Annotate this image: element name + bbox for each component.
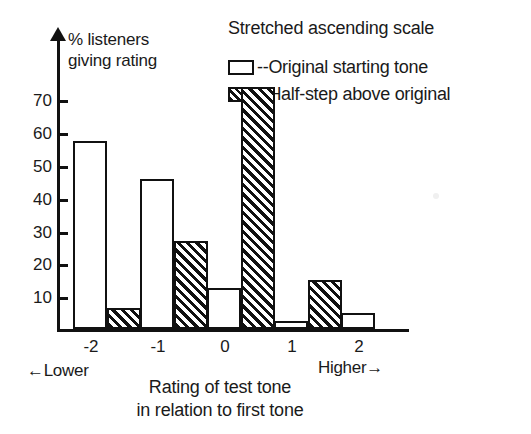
scan-artifact-speck xyxy=(433,193,439,199)
x-axis-caption: Rating of test tone in relation to first… xyxy=(0,376,440,423)
bar-original-0 xyxy=(207,288,241,329)
y-axis-tick-label: 20 xyxy=(18,256,52,273)
bar-halfstep-0 xyxy=(241,87,275,329)
y-axis-tick-label: 70 xyxy=(18,92,52,109)
y-axis-tick-label: 40 xyxy=(18,191,52,208)
x-axis-caption-line-1: Rating of test tone xyxy=(149,377,291,397)
bar-chart-figure: Stretched ascending scale --Original sta… xyxy=(0,0,531,434)
x-axis-tick-label: 0 xyxy=(210,338,240,355)
x-axis-line xyxy=(57,329,409,332)
x-axis-caption-line-2: in relation to first tone xyxy=(136,400,303,420)
x-axis-tick-label: 1 xyxy=(277,338,307,355)
bar-original-2 xyxy=(341,313,375,329)
bar-halfstep-1 xyxy=(308,280,342,329)
x-axis-tick-label: -2 xyxy=(76,338,106,355)
bar-original-1 xyxy=(274,321,308,329)
x-axis-higher-note: Higher→ xyxy=(318,358,383,378)
bar-original--1 xyxy=(140,179,174,329)
y-axis-tick-label: 30 xyxy=(18,224,52,241)
x-axis-tick-label: 2 xyxy=(344,338,374,355)
y-axis-tick-label: 10 xyxy=(18,289,52,306)
bar-original--2 xyxy=(73,141,107,329)
y-axis-tick-label: 60 xyxy=(18,125,52,142)
plot-area xyxy=(57,36,409,329)
x-axis-tick-label: -1 xyxy=(143,338,173,355)
bar-halfstep--1 xyxy=(174,241,208,329)
y-axis-tick-label: 50 xyxy=(18,158,52,175)
bar-halfstep--2 xyxy=(107,308,141,329)
